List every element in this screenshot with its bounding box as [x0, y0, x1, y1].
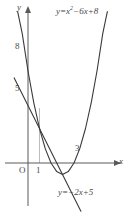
origin-label: O: [19, 166, 26, 175]
x-axis-label: x: [119, 157, 123, 166]
y-axis-arrow-icon: [25, 6, 31, 13]
x-tick-label-3: 3: [75, 144, 80, 153]
parabola-equation-prefix: y=x: [56, 6, 70, 16]
parabola-equation-suffix: −6x+8: [73, 6, 98, 16]
graph-figure: y x O 1 3 8 5 y=x2−6x+8 y=−2x+5: [0, 0, 129, 212]
x-tick-label-1: 1: [36, 166, 41, 175]
plot-canvas: [0, 0, 129, 212]
parabola-equation-label: y=x2−6x+8: [56, 5, 98, 16]
parabola-curve: [18, 12, 108, 175]
linear-equation-label: y=−2x+5: [58, 188, 93, 197]
y-tick-label-5: 5: [15, 84, 20, 93]
y-axis-label: y: [17, 3, 21, 12]
y-tick-label-8: 8: [15, 42, 20, 51]
